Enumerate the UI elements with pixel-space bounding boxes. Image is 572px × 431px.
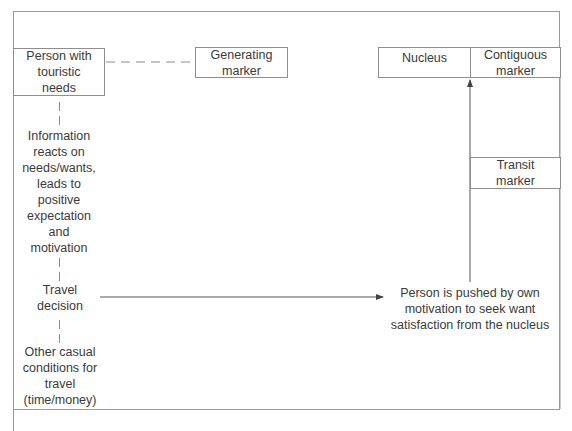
dashed-tick	[59, 272, 60, 281]
dashed-tick	[59, 102, 60, 111]
person-with-touristic-needs-box: Person with touristic needs	[13, 48, 105, 96]
nucleus-label: Nucleus	[402, 50, 447, 66]
contiguous-marker-box: Contiguous marker	[470, 47, 561, 78]
dashed-tick	[59, 258, 60, 267]
travel-decision-text: Travel decision	[30, 282, 90, 314]
dashed-tick	[59, 116, 60, 125]
generating-marker-box: Generating marker	[195, 47, 288, 78]
dashed-tick	[59, 334, 60, 343]
push-motivation-text: Person is pushed by own motivation to se…	[386, 285, 554, 333]
nucleus-box: Nucleus	[378, 47, 471, 78]
transit-marker-box: Transit marker	[470, 157, 561, 189]
generating-marker-label: Generating marker	[196, 47, 287, 79]
contiguous-marker-label: Contiguous marker	[471, 47, 560, 79]
transit-marker-label: Transit marker	[471, 157, 560, 189]
information-text: Information reacts on needs/wants, leads…	[20, 128, 98, 256]
person-box-label: Person with touristic needs	[14, 48, 104, 96]
other-conditions-text: Other casual conditions for travel (time…	[18, 344, 102, 408]
dashed-tick	[59, 320, 60, 329]
